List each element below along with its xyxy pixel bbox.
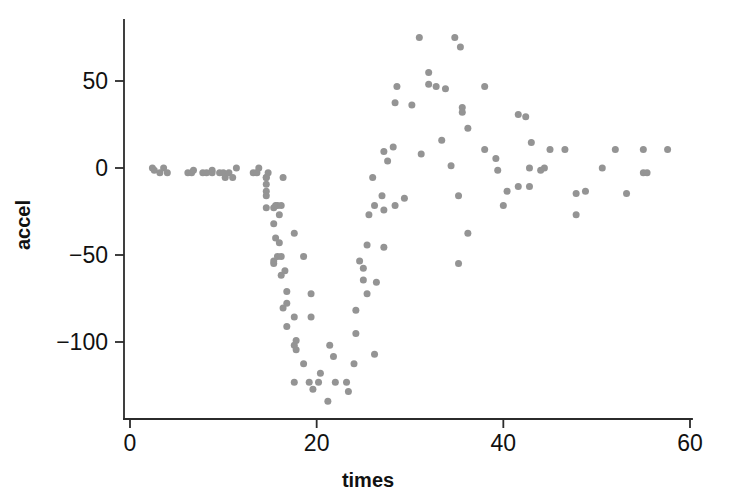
data-point: [425, 69, 432, 76]
data-point: [263, 181, 270, 188]
data-point: [332, 379, 339, 386]
data-point: [541, 165, 548, 172]
data-point: [515, 183, 522, 190]
data-point: [526, 165, 533, 172]
data-point: [384, 158, 391, 165]
data-point: [265, 169, 272, 176]
data-point: [455, 192, 462, 199]
x-tick-label: 60: [677, 430, 703, 456]
x-axis-title: times: [342, 469, 394, 491]
data-point: [392, 202, 399, 209]
data-point: [343, 379, 350, 386]
data-point: [345, 388, 352, 395]
y-tick-label: −100: [56, 329, 108, 355]
data-point: [582, 188, 589, 195]
data-point: [438, 137, 445, 144]
data-point: [392, 99, 399, 106]
data-point: [293, 337, 300, 344]
data-point: [300, 360, 307, 367]
data-point: [451, 34, 458, 41]
data-point: [425, 81, 432, 88]
data-point: [664, 146, 671, 153]
data-point: [352, 307, 359, 314]
data-point: [281, 267, 288, 274]
y-tick-label: 0: [95, 155, 108, 181]
data-point: [547, 146, 554, 153]
data-point: [640, 146, 647, 153]
data-point: [263, 192, 270, 199]
data-point: [283, 323, 290, 330]
data-point: [360, 277, 367, 284]
data-point: [573, 211, 580, 218]
data-point: [315, 379, 322, 386]
data-point: [306, 379, 313, 386]
data-point: [371, 202, 378, 209]
data-point: [233, 165, 240, 172]
data-point: [644, 169, 651, 176]
data-point: [330, 353, 337, 360]
data-point: [457, 43, 464, 50]
x-tick-label: 40: [491, 430, 517, 456]
data-point: [401, 195, 408, 202]
data-point: [416, 34, 423, 41]
data-point: [393, 83, 400, 90]
data-point: [324, 398, 331, 405]
data-point: [380, 244, 387, 251]
data-point: [612, 146, 619, 153]
data-point: [326, 342, 333, 349]
data-point: [481, 83, 488, 90]
plot-canvas: 500−50−100 0204060 times accel: [0, 0, 734, 504]
data-point: [190, 167, 197, 174]
data-point: [492, 155, 499, 162]
data-point: [379, 192, 386, 199]
data-point: [623, 190, 630, 197]
data-point: [364, 242, 371, 249]
data-point: [309, 386, 316, 393]
data-point: [464, 230, 471, 237]
data-point: [500, 202, 507, 209]
data-point: [442, 85, 449, 92]
data-point: [494, 167, 501, 174]
data-point: [229, 174, 236, 181]
data-point: [308, 313, 315, 320]
data-point: [308, 290, 315, 297]
data-point: [380, 207, 387, 214]
data-point: [369, 174, 376, 181]
data-point: [283, 300, 290, 307]
data-point: [515, 111, 522, 118]
y-tick-label: 50: [82, 68, 108, 94]
data-point: [504, 188, 511, 195]
data-point: [276, 211, 283, 218]
data-point: [373, 279, 380, 286]
data-point: [291, 230, 298, 237]
data-point: [352, 330, 359, 337]
data-point: [278, 202, 285, 209]
data-point: [356, 258, 363, 265]
data-point: [300, 253, 307, 260]
data-point: [371, 351, 378, 358]
data-point: [283, 288, 290, 295]
data-point: [164, 169, 171, 176]
data-point: [418, 150, 425, 157]
data-point: [263, 204, 270, 211]
y-tick-label: −50: [69, 242, 108, 268]
data-point: [455, 260, 462, 267]
x-tick-label: 0: [124, 430, 137, 456]
data-point: [317, 370, 324, 377]
data-point: [380, 148, 387, 155]
data-point: [448, 162, 455, 169]
scatter-plot-figure: 500−50−100 0204060 times accel: [0, 0, 734, 504]
data-point: [365, 211, 372, 218]
data-point: [255, 165, 262, 172]
data-point: [209, 169, 216, 176]
data-point: [270, 260, 277, 267]
plot-background: [0, 0, 734, 504]
data-point: [522, 113, 529, 120]
data-point: [459, 109, 466, 116]
data-point: [270, 220, 277, 227]
data-point: [351, 360, 358, 367]
data-point: [276, 239, 283, 246]
data-point: [433, 83, 440, 90]
data-point: [561, 146, 568, 153]
data-point: [278, 253, 285, 260]
